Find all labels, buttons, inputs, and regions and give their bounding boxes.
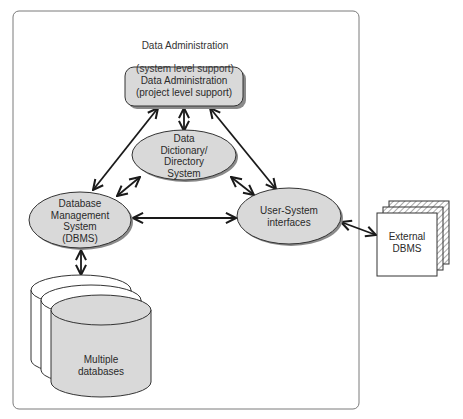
project-admin-node (125, 67, 246, 109)
external-dbms-node (377, 201, 449, 276)
data-administration-diagram (0, 0, 463, 419)
